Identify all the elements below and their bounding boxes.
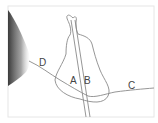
label-b: B bbox=[84, 76, 91, 86]
label-d: D bbox=[39, 58, 46, 68]
diagram-figure bbox=[0, 0, 158, 123]
label-a: A bbox=[70, 76, 77, 86]
label-c: C bbox=[128, 81, 135, 91]
